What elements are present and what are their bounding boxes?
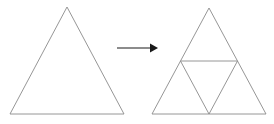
arrow-group: [117, 44, 158, 53]
left-triangle-outline: [10, 7, 124, 114]
arrow-head-icon: [150, 44, 158, 53]
inner-inverted-triangle: [181, 61, 238, 114]
right-triangle-group: [152, 8, 266, 114]
left-triangle-group: [10, 7, 124, 114]
triangle-subdivision-diagram: [0, 0, 274, 124]
diagram-canvas: [0, 0, 274, 124]
